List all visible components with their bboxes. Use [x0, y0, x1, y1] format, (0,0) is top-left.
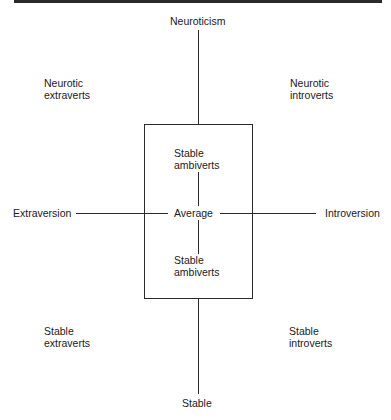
axis-label-right: Introversion: [325, 207, 380, 219]
quadrant-stable-extraverts: Stable extraverts: [44, 325, 90, 349]
quadrant-neurotic-introverts: Neurotic introverts: [290, 77, 333, 101]
axis-label-left: Extraversion: [13, 207, 71, 219]
center-label: Average: [174, 207, 213, 219]
top-rule: [14, 0, 382, 3]
axis-label-bottom: Stable: [182, 397, 212, 409]
axis-label-top: Neuroticism: [170, 15, 225, 27]
quadrant-stable-introverts: Stable introverts: [289, 325, 332, 349]
box-label-upper: Stable ambiverts: [174, 147, 220, 171]
vertical-axis-lower: [198, 299, 199, 394]
vertical-axis-upper: [198, 30, 199, 124]
box-label-lower: Stable ambiverts: [174, 254, 220, 278]
quadrant-neurotic-extraverts: Neurotic extraverts: [44, 77, 90, 101]
